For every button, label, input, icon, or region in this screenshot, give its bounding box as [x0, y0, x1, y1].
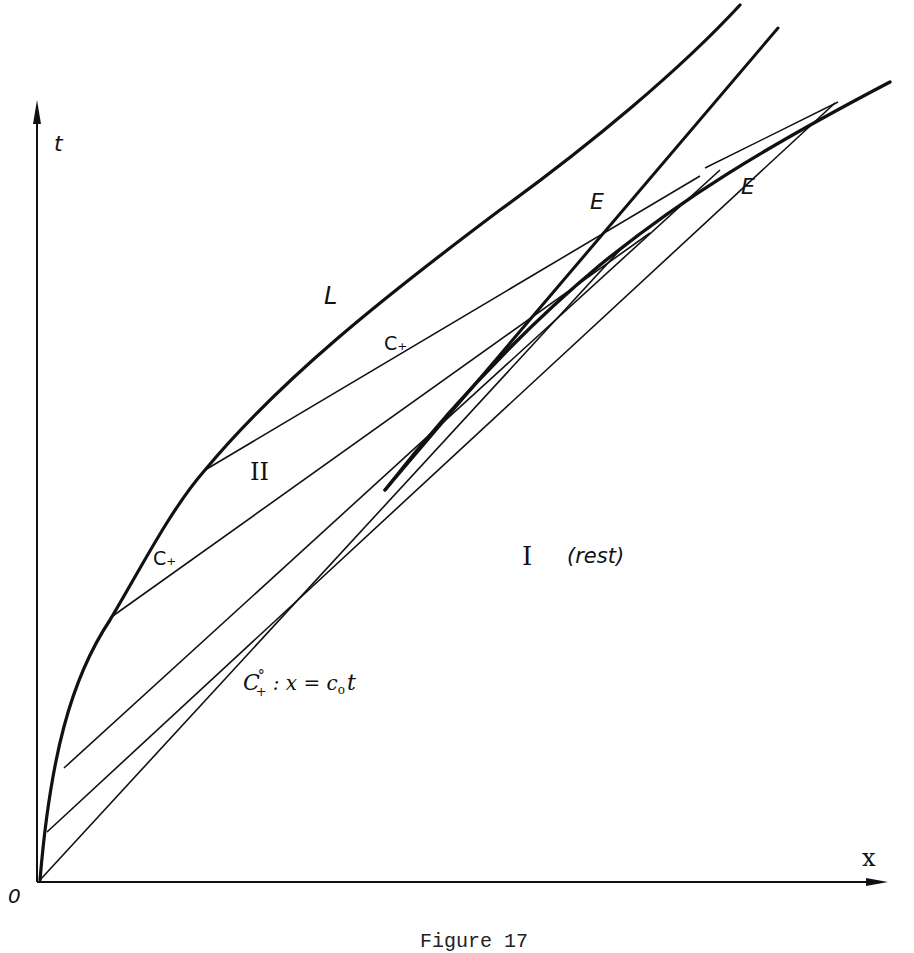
- c-plus-char-4: [47, 103, 835, 832]
- envelope-label-right: E: [741, 176, 755, 198]
- c-plus-characteristics: [40, 103, 835, 880]
- c-plus-char-3: [64, 170, 720, 768]
- envelope-label-left: E: [590, 191, 604, 213]
- region-two-label: II: [250, 460, 269, 484]
- region-one-label: I: [522, 543, 532, 569]
- c-plus-zero-eq-end: t: [347, 670, 356, 695]
- c-plus-zero-sub: +: [256, 684, 267, 699]
- c-plus-lower-label: C₊: [153, 549, 176, 568]
- piston-path-L: [40, 5, 740, 880]
- t-axis-label: t: [54, 133, 63, 155]
- origin-label: 0: [8, 886, 21, 906]
- region-one-note: (rest): [567, 546, 624, 567]
- c-plus-upper-label: C₊: [384, 334, 407, 353]
- c-plus-zero-eq: : x = c: [273, 671, 338, 695]
- x-axis-label: x: [862, 846, 876, 870]
- x-axis: [37, 878, 888, 886]
- piston-path-label: L: [324, 284, 337, 308]
- c-plus-zero-eq-sub: o: [338, 683, 345, 697]
- figure-caption: Figure 17: [420, 932, 528, 952]
- c-plus-zero-sup: °: [258, 667, 265, 683]
- c-plus-zero-label: C°+: x = cot: [243, 672, 356, 694]
- t-axis: [33, 100, 41, 882]
- c-plus-char-1: [205, 176, 700, 470]
- c-plus-char-5: [705, 102, 838, 168]
